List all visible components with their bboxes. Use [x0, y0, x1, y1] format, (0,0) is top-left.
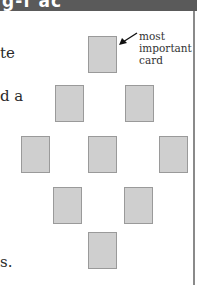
card — [88, 232, 117, 269]
card — [21, 136, 50, 173]
body-text-fragment-3: s. — [0, 255, 12, 270]
card — [53, 187, 82, 224]
most-important-card-label: most important card — [139, 30, 192, 66]
label-line: important — [139, 42, 192, 54]
header-bar: g-f ac — [0, 0, 197, 11]
label-line: most — [139, 30, 192, 42]
arrow-icon — [118, 32, 138, 46]
card — [159, 136, 188, 173]
body-text-fragment-2: d a — [0, 89, 23, 104]
page-border — [193, 11, 195, 285]
header-title: g-f ac — [2, 0, 62, 11]
card — [124, 187, 153, 224]
label-line: card — [139, 54, 192, 66]
card — [55, 85, 84, 122]
card — [88, 136, 117, 173]
card — [125, 85, 154, 122]
card-most-important — [88, 36, 117, 73]
body-text-fragment-1: te — [0, 46, 15, 61]
